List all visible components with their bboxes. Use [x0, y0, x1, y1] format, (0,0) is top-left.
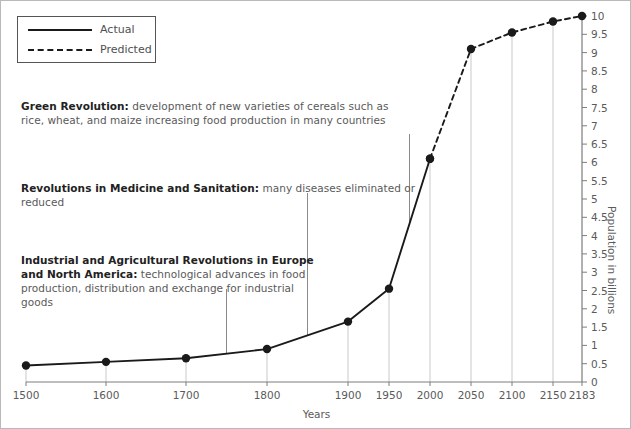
chart-legend: Actual Predicted	[17, 16, 156, 63]
population-growth-chart: Actual Predicted Green Revolution: devel…	[0, 0, 631, 429]
chart-canvas	[1, 1, 631, 429]
y-tick-5: 5	[591, 193, 598, 205]
y-tick-10: 10	[591, 10, 604, 22]
y-tick-3: 3	[591, 266, 598, 278]
y-tick-7-5: 7.5	[591, 102, 608, 114]
data-point-1500	[22, 361, 30, 369]
y-tick-9-5: 9.5	[591, 28, 608, 40]
data-point-2000	[426, 155, 434, 163]
x-tick-1900: 1900	[335, 389, 362, 401]
y-axis-title: Population in billions	[606, 206, 618, 314]
y-tick-1: 1	[591, 339, 598, 351]
y-tick-1-5: 1.5	[591, 321, 608, 333]
y-tick-7: 7	[591, 120, 598, 132]
y-tick-0-5: 0.5	[591, 358, 608, 370]
x-tick-2000: 2000	[417, 389, 444, 401]
y-tick-5-5: 5.5	[591, 175, 608, 187]
annotation-green-revolution: Green Revolution: development of new var…	[21, 99, 413, 127]
data-point-2050	[467, 45, 475, 53]
x-tick-1700: 1700	[173, 389, 200, 401]
annotation-medicine-sanitation: Revolutions in Medicine and Sanitation: …	[21, 181, 421, 209]
legend-label-actual: Actual	[100, 24, 134, 36]
y-tick-9: 9	[591, 47, 598, 59]
x-tick-1950: 1950	[376, 389, 403, 401]
data-point-1600	[102, 358, 110, 366]
y-tick-6: 6	[591, 156, 598, 168]
data-point-1950	[385, 284, 393, 292]
y-tick-0: 0	[591, 376, 598, 388]
data-point-1900	[344, 317, 352, 325]
x-tick-2100: 2100	[499, 389, 526, 401]
x-tick-2183: 2183	[569, 389, 596, 401]
x-tick-1600: 1600	[93, 389, 120, 401]
x-tick-2050: 2050	[458, 389, 485, 401]
y-tick-8: 8	[591, 83, 598, 95]
y-tick-2: 2	[591, 303, 598, 315]
y-tick-6-5: 6.5	[591, 138, 608, 150]
data-point-1700	[182, 354, 190, 362]
data-point-2150	[549, 17, 557, 25]
annotation-title-1: Revolutions in Medicine and Sanitation:	[21, 182, 259, 194]
x-tick-1800: 1800	[254, 389, 281, 401]
legend-item-predicted: Predicted	[18, 40, 155, 60]
series-line-predicted	[430, 16, 582, 159]
annotation-industrial-agricultural: Industrial and Agricultural Revolutions …	[21, 253, 321, 309]
legend-item-actual: Actual	[18, 20, 155, 40]
data-point-1800	[263, 345, 271, 353]
data-point-2100	[508, 28, 516, 36]
x-axis-title: Years	[1, 408, 631, 420]
legend-label-predicted: Predicted	[100, 44, 152, 56]
annotation-leader-line-group	[227, 134, 410, 354]
data-point-2183	[578, 12, 586, 20]
y-tick-4: 4	[591, 230, 598, 242]
y-tick-8-5: 8.5	[591, 65, 608, 77]
legend-swatch-dashed-line	[28, 45, 92, 55]
annotation-title-0: Green Revolution:	[21, 100, 129, 112]
x-tick-1500: 1500	[13, 389, 40, 401]
x-tick-2150: 2150	[540, 389, 567, 401]
legend-swatch-solid-line	[28, 25, 92, 35]
